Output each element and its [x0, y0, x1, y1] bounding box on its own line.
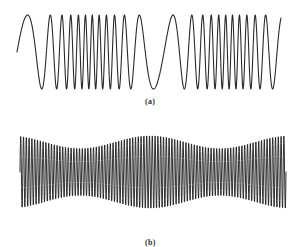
fm-waveform-a: [17, 15, 281, 89]
am-waveform-b: [20, 136, 286, 208]
panel-label-b: (b): [145, 238, 156, 247]
panel-label-a: (a): [145, 97, 155, 106]
